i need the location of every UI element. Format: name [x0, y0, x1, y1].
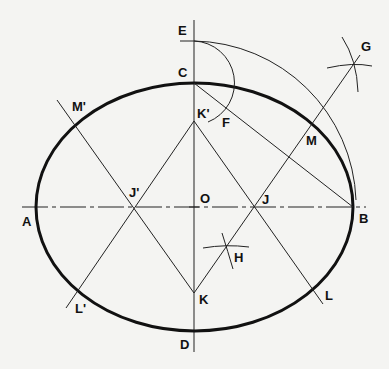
label-g: G — [361, 40, 371, 53]
diagram-svg — [0, 0, 389, 369]
label-c: C — [178, 66, 187, 79]
label-k-prime: K' — [197, 107, 209, 120]
label-o: O — [200, 192, 210, 205]
arc-g-horizontal — [327, 64, 372, 68]
label-a: A — [22, 215, 31, 228]
label-l: L — [325, 289, 333, 302]
label-k: K — [199, 293, 208, 306]
label-m: M — [306, 134, 317, 147]
line-k-g — [194, 55, 360, 293]
ellipse-construction-diagram: E C K' F G M M' J' O J A B H K L L' D — [0, 0, 389, 369]
label-e: E — [178, 24, 187, 37]
label-h: H — [234, 251, 243, 264]
label-l-prime: L' — [75, 302, 86, 315]
line-k-m1 — [57, 100, 194, 293]
label-m-prime: M' — [72, 100, 86, 113]
label-j-prime: J' — [129, 186, 139, 199]
label-d: D — [180, 338, 189, 351]
line-k1-l1 — [66, 121, 194, 308]
line-k1-l — [194, 121, 323, 304]
label-j: J — [262, 193, 269, 206]
label-b: B — [359, 212, 368, 225]
label-f: F — [222, 116, 230, 129]
line-c-b — [194, 83, 353, 207]
